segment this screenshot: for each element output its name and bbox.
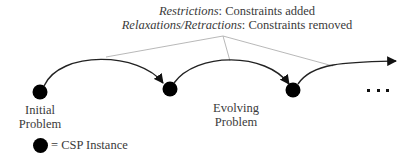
continuation-dots <box>367 89 389 92</box>
guide-line-arc1 <box>106 36 223 57</box>
initial-label-line2: Problem <box>5 117 75 131</box>
guide-lines <box>106 36 333 66</box>
csp-instance-icon <box>33 138 48 153</box>
csp-node-second <box>163 82 178 97</box>
initial-label-line1: Initial <box>5 103 75 117</box>
csp-node-initial <box>33 85 48 100</box>
evolving-label-line2: Problem <box>201 115 271 129</box>
arc-third-onward <box>298 61 396 84</box>
arc-initial-to-second <box>44 59 163 86</box>
restrictions-caption: Restrictions: Constraints added <box>30 4 414 18</box>
legend-text: = CSP Instance <box>51 138 128 153</box>
arc-second-to-third <box>174 60 289 84</box>
restrictions-term: Restrictions <box>159 4 219 18</box>
relaxations-term: Relaxations/Retractions <box>122 18 242 32</box>
evolving-problem-label: Evolving Problem <box>201 101 271 129</box>
initial-problem-label: Initial Problem <box>5 103 75 131</box>
guide-line-arc3 <box>223 36 333 66</box>
relaxations-desc: : Constraints removed <box>242 18 352 32</box>
restrictions-desc: : Constraints added <box>219 4 316 18</box>
csp-node-third <box>286 83 301 98</box>
legend-key: = CSP Instance <box>33 138 128 153</box>
relaxations-caption: Relaxations/Retractions: Constraints rem… <box>30 18 414 32</box>
evolving-label-line1: Evolving <box>201 101 271 115</box>
transition-arcs <box>44 59 396 86</box>
guide-line-arc2 <box>223 36 230 61</box>
